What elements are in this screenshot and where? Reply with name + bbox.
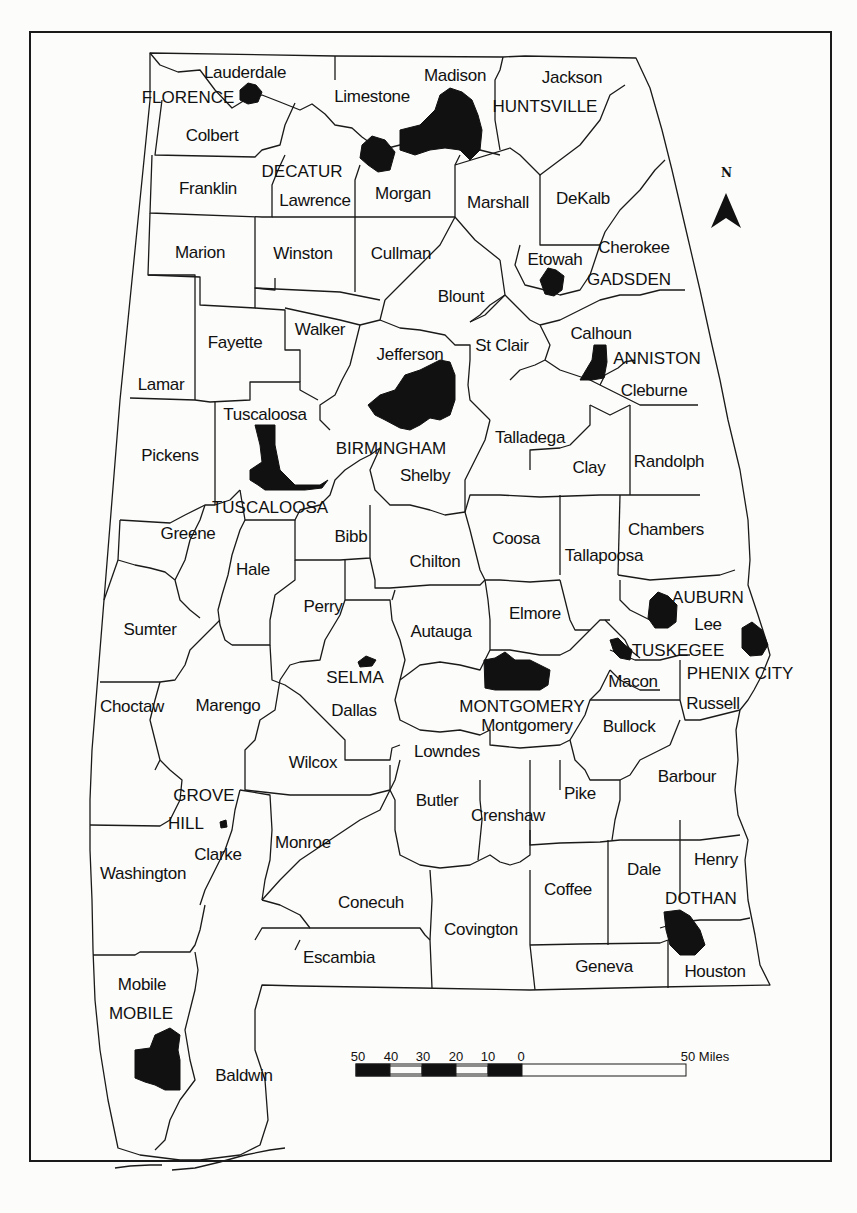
county-label: Washington: [100, 865, 186, 882]
scale-tick: 50: [351, 1050, 365, 1063]
city-label: GADSDEN: [587, 271, 671, 288]
scale-tick: 30: [416, 1050, 430, 1063]
county-label: Cleburne: [621, 382, 688, 399]
dauphin-island: [115, 1165, 162, 1168]
county-label: Lowndes: [414, 743, 480, 760]
county-label: Clarke: [194, 846, 241, 863]
county-label: Sumter: [124, 621, 177, 638]
phenix-city-urban-area: [742, 622, 768, 656]
city-label: HUNTSVILLE: [493, 98, 598, 115]
county-label: Choctaw: [100, 698, 164, 715]
county-label: DeKalb: [556, 190, 610, 207]
city-label: BIRMINGHAM: [336, 440, 447, 457]
county-label: Dallas: [331, 702, 376, 719]
county-label: Butler: [416, 792, 459, 809]
selma-urban-area: [358, 656, 376, 667]
county-label: Walker: [295, 321, 345, 338]
county-label: Pickens: [141, 447, 198, 464]
city-label: DOTHAN: [665, 890, 737, 907]
county-label: Coosa: [492, 530, 540, 547]
county-label: Wilcox: [289, 754, 337, 771]
county-label: Escambia: [303, 949, 375, 966]
city-label: ANNISTON: [613, 350, 701, 367]
gadsden-urban-area: [540, 268, 564, 296]
mobile-urban-area: [135, 1028, 180, 1090]
county-label: Clay: [573, 459, 606, 476]
county-label: Marshall: [467, 194, 529, 211]
city-label: GROVE: [173, 787, 234, 804]
county-label: Cullman: [371, 245, 431, 262]
county-label: Lauderdale: [204, 64, 286, 81]
city-label: HILL: [168, 815, 204, 832]
city-label: PHENIX CITY: [687, 665, 794, 682]
city-label: SELMA: [326, 669, 384, 686]
county-label: Limestone: [334, 88, 410, 105]
county-label: Autauga: [410, 623, 471, 640]
grove-hill-urban-area: [220, 820, 227, 828]
county-label: Blount: [438, 288, 484, 305]
tuskegee-urban-area: [610, 638, 632, 660]
county-label: Lawrence: [279, 192, 350, 209]
scale-tick: 20: [449, 1050, 463, 1063]
county-label: Elmore: [509, 605, 561, 622]
montgomery-urban-area: [484, 652, 550, 690]
county-label: Henry: [694, 851, 738, 868]
county-label: Barbour: [658, 768, 716, 785]
county-label: Cherokee: [598, 239, 669, 256]
city-label: TUSKEGEE: [632, 642, 725, 659]
county-label: Fayette: [208, 334, 263, 351]
north-arrow-icon: [711, 193, 741, 228]
county-label: Lee: [694, 616, 721, 633]
county-label: Randolph: [634, 453, 704, 470]
city-label: TUSCALOOSA: [212, 499, 328, 516]
county-label: Shelby: [400, 467, 450, 484]
county-label: Monroe: [275, 834, 331, 851]
county-label: Tuscaloosa: [223, 406, 306, 423]
county-label: Bullock: [603, 718, 656, 735]
county-label: Etowah: [528, 251, 583, 268]
tuscaloosa-urban-area: [250, 425, 328, 490]
gulf-shore: [172, 1148, 285, 1170]
city-label: MONTGOMERY: [459, 698, 584, 715]
county-label: Lamar: [138, 376, 185, 393]
county-label: Geneva: [575, 958, 633, 975]
huntsville-urban-area: [400, 88, 482, 160]
anniston-urban-area: [580, 345, 607, 380]
city-label: AUBURN: [672, 589, 744, 606]
city-label: FLORENCE: [142, 89, 235, 106]
scale-tick: 40: [384, 1050, 398, 1063]
scale-bar: [356, 1064, 686, 1076]
county-label: Perry: [303, 598, 342, 615]
county-label: Franklin: [179, 180, 237, 197]
county-label: St Clair: [475, 337, 528, 354]
county-label: Chilton: [410, 553, 461, 570]
alabama-county-map: [0, 0, 857, 1213]
county-label: Crenshaw: [471, 807, 545, 824]
county-label: Coffee: [544, 881, 592, 898]
county-label: Houston: [684, 963, 745, 980]
county-label: Dale: [627, 861, 661, 878]
county-label: Baldwin: [215, 1067, 272, 1084]
scale-tick: 0: [517, 1050, 524, 1063]
county-label: Madison: [424, 67, 486, 84]
florence-urban-area: [240, 83, 262, 104]
county-label: Hale: [236, 561, 270, 578]
county-label: Talladega: [495, 429, 565, 446]
scale-end-label: 50 Miles: [681, 1050, 729, 1063]
county-label: Marion: [175, 244, 225, 261]
county-label: Covington: [444, 921, 518, 938]
county-label: Mobile: [118, 976, 166, 993]
county-label: Tallapoosa: [565, 547, 643, 564]
county-label: Bibb: [335, 528, 368, 545]
county-label: Russell: [686, 695, 740, 712]
city-label: MOBILE: [109, 1005, 173, 1022]
county-label: Morgan: [375, 185, 431, 202]
county-label: Macon: [608, 673, 658, 690]
decatur-urban-area: [360, 136, 395, 172]
north-label: N: [721, 166, 732, 180]
county-label: Chambers: [628, 521, 704, 538]
dothan-urban-area: [664, 910, 705, 955]
county-label: Montgomery: [481, 717, 572, 734]
city-label: DECATUR: [262, 163, 343, 180]
county-label: Jefferson: [377, 346, 444, 363]
